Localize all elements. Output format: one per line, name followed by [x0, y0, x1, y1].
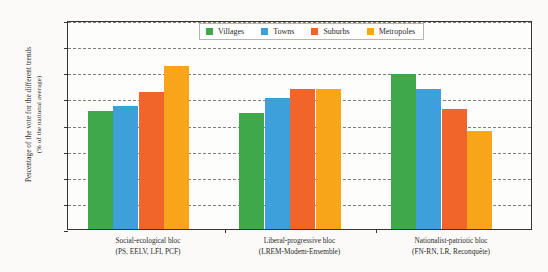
y-tick-mark	[64, 48, 68, 49]
plot-area	[67, 21, 532, 230]
y-tick-mark	[64, 127, 68, 128]
bar-group	[230, 22, 371, 229]
bar-suburbs	[139, 92, 164, 229]
y-tick-mark	[64, 22, 68, 23]
y-tick-mark	[64, 74, 68, 75]
bar-chart: Percentage of the vote for the different…	[0, 0, 548, 272]
y-tick-mark	[64, 179, 68, 180]
bar-villages	[239, 113, 264, 229]
legend-label: Suburbs	[323, 27, 349, 36]
bar-group	[382, 22, 523, 229]
bar-suburbs	[290, 89, 315, 229]
category-label-line1: Liberal-progressive bloc	[217, 236, 382, 247]
y-tick-mark	[64, 231, 68, 232]
category-label-line2: (LREM-Modem-Ensemble)	[217, 247, 382, 258]
y-axis-title-line2: (% of the national average)	[35, 76, 42, 154]
bar-metropoles	[467, 131, 492, 229]
x-axis-category-label: Social-ecological bloc(PS, EELV, LFI, PC…	[66, 236, 231, 258]
y-tick-mark	[64, 205, 68, 206]
chart-legend: VillagesTownsSuburbsMetropoles	[199, 23, 424, 40]
y-tick-mark	[64, 100, 68, 101]
bar-group	[79, 22, 220, 229]
y-axis-title-line1: Percentage of the vote for the different…	[25, 47, 33, 182]
category-label-line2: (FN-RN, LR, Reconquête)	[369, 247, 534, 258]
bar-metropoles	[316, 89, 341, 229]
legend-item-villages: Villages	[206, 27, 244, 36]
legend-item-metropoles: Metropoles	[367, 27, 415, 36]
legend-swatch-icon	[311, 28, 318, 35]
legend-item-suburbs: Suburbs	[311, 27, 349, 36]
x-axis-category-label: Nationalist-patriotic bloc(FN-RN, LR, Re…	[369, 236, 534, 258]
bar-suburbs	[442, 109, 467, 229]
legend-label: Towns	[273, 27, 294, 36]
y-tick-mark	[64, 153, 68, 154]
bar-towns	[113, 106, 138, 229]
category-label-line2: (PS, EELV, LFI, PCF)	[66, 247, 231, 258]
y-axis-title: Percentage of the vote for the different…	[24, 9, 45, 219]
legend-swatch-icon	[261, 28, 268, 35]
bar-towns	[265, 98, 290, 229]
legend-item-towns: Towns	[261, 27, 294, 36]
legend-swatch-icon	[206, 28, 213, 35]
bar-towns	[416, 89, 441, 229]
bar-metropoles	[164, 66, 189, 229]
legend-label: Villages	[218, 27, 244, 36]
x-axis-category-label: Liberal-progressive bloc(LREM-Modem-Ense…	[217, 236, 382, 258]
legend-label: Metropoles	[379, 27, 415, 36]
x-axis-separator-tick	[225, 229, 226, 233]
category-label-line1: Social-ecological bloc	[66, 236, 231, 247]
legend-swatch-icon	[367, 28, 374, 35]
x-axis-separator-tick	[376, 229, 377, 233]
bar-villages	[391, 74, 416, 229]
bar-villages	[88, 111, 113, 229]
category-label-line1: Nationalist-patriotic bloc	[369, 236, 534, 247]
